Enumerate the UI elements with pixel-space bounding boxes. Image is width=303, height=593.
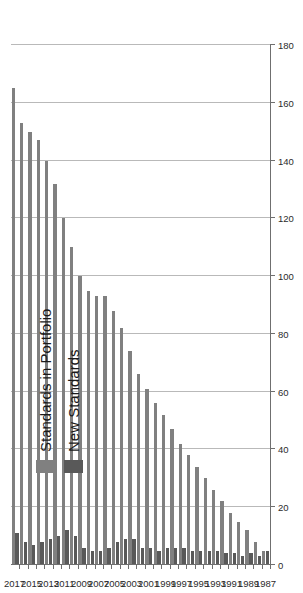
rotated-figure-wrapper: 1987198919911993199519971999200120032005… (0, 0, 303, 593)
category-tick-2006 (111, 565, 112, 569)
value-tick-label-140: 140 (278, 157, 294, 167)
category-tick-2007 (103, 565, 104, 569)
bar-standards-in-portfolio-2004 (120, 328, 123, 565)
category-tick-1997 (186, 565, 187, 569)
value-tick-120 (270, 217, 275, 218)
bar-standards-in-portfolio-2017 (12, 88, 15, 565)
legend-swatch-portfolio (36, 460, 55, 473)
value-tick-label-160: 160 (278, 99, 294, 109)
value-tick-180 (270, 44, 275, 45)
legend-label-new-standards: New Standards (65, 349, 82, 452)
legend-swatch-new-standards (64, 460, 83, 473)
bar-new-standards-2013 (49, 539, 52, 565)
value-tick-40 (270, 448, 275, 449)
bar-new-standards-2014 (40, 542, 43, 565)
bar-new-standards-1999 (166, 548, 169, 565)
bar-new-standards-1998 (174, 548, 177, 565)
bar-standards-in-portfolio-1988 (254, 542, 257, 565)
bar-new-standards-1987 (266, 551, 269, 565)
category-tick-1999 (170, 565, 171, 569)
value-tick-label-180: 180 (278, 41, 294, 51)
gridline-160 (11, 102, 270, 103)
category-tick-1996 (195, 565, 196, 569)
category-tick-2002 (145, 565, 146, 569)
category-tick-2001 (153, 565, 154, 569)
bar-new-standards-2006 (107, 548, 110, 565)
bar-standards-in-portfolio-2016 (20, 123, 23, 565)
value-tick-label-80: 80 (278, 330, 289, 340)
bar-standards-in-portfolio-1993 (212, 490, 215, 565)
category-tick-1994 (212, 565, 213, 569)
value-tick-label-60: 60 (278, 388, 289, 398)
bar-standards-in-portfolio-1995 (195, 467, 198, 565)
bar-standards-in-portfolio-2003 (128, 351, 131, 565)
category-tick-2013 (53, 565, 54, 569)
category-tick-2009 (86, 565, 87, 569)
bar-standards-in-portfolio-2008 (87, 291, 90, 565)
bar-standards-in-portfolio-2001 (145, 389, 148, 565)
bar-new-standards-2007 (99, 551, 102, 565)
bar-standards-in-portfolio-2000 (154, 403, 157, 565)
category-tick-1992 (228, 565, 229, 569)
bar-new-standards-2012 (57, 536, 60, 565)
bar-standards-in-portfolio-1987 (262, 551, 265, 565)
bar-new-standards-2005 (116, 542, 119, 565)
category-tick-2014 (44, 565, 45, 569)
category-tick-1987 (270, 565, 271, 569)
bar-new-standards-2004 (124, 539, 127, 565)
category-tick-2005 (120, 565, 121, 569)
legend-item-standards-in-portfolio: Standards in Portfolio (36, 309, 55, 473)
bar-new-standards-2011 (65, 530, 68, 565)
category-tick-1989 (253, 565, 254, 569)
bar-new-standards-2016 (24, 542, 27, 565)
category-tick-2012 (61, 565, 62, 569)
bar-new-standards-2009 (82, 548, 85, 565)
bar-chart-figure: 1987198919911993199519971999200120032005… (0, 0, 303, 593)
value-tick-80 (270, 333, 275, 334)
legend-label-portfolio: Standards in Portfolio (37, 309, 54, 452)
category-tick-2010 (78, 565, 79, 569)
bar-new-standards-1994 (208, 551, 211, 565)
value-axis-line: 020406080100120140160180 (270, 45, 271, 565)
category-tick-2011 (69, 565, 70, 569)
category-tick-2000 (161, 565, 162, 569)
bar-standards-in-portfolio-1998 (170, 429, 173, 565)
bar-new-standards-2000 (157, 551, 160, 565)
bar-new-standards-1997 (182, 548, 185, 565)
bar-new-standards-2002 (141, 548, 144, 565)
bar-standards-in-portfolio-1989 (245, 530, 248, 565)
bar-new-standards-2001 (149, 548, 152, 565)
value-tick-0 (270, 564, 275, 565)
category-axis-line (11, 564, 270, 565)
bar-standards-in-portfolio-2005 (112, 311, 115, 565)
value-tick-100 (270, 275, 275, 276)
category-tick-2017 (19, 565, 20, 569)
gridline-100 (11, 275, 270, 276)
bar-new-standards-2017 (15, 533, 18, 565)
category-tick-2003 (136, 565, 137, 569)
value-tick-label-120: 120 (278, 214, 294, 224)
bar-new-standards-1996 (191, 551, 194, 565)
bar-standards-in-portfolio-2002 (137, 374, 140, 565)
value-tick-20 (270, 506, 275, 507)
bar-standards-in-portfolio-2015 (28, 132, 31, 565)
bar-standards-in-portfolio-1991 (229, 513, 232, 565)
category-tick-1998 (178, 565, 179, 569)
bar-new-standards-1993 (216, 551, 219, 565)
value-tick-label-0: 0 (278, 561, 283, 571)
category-tick-1990 (245, 565, 246, 569)
category-tick-1993 (220, 565, 221, 569)
bar-standards-in-portfolio-1999 (162, 415, 165, 565)
chart-legend: Standards in Portfolio New Standards (36, 309, 83, 473)
bar-standards-in-portfolio-1994 (204, 478, 207, 565)
gridline-20 (11, 506, 270, 507)
legend-item-new-standards: New Standards (64, 309, 83, 473)
category-tick-2008 (95, 565, 96, 569)
bar-standards-in-portfolio-1997 (179, 444, 182, 565)
gridline-120 (11, 217, 270, 218)
bar-new-standards-2008 (91, 551, 94, 565)
bar-new-standards-2015 (32, 545, 35, 565)
value-tick-140 (270, 160, 275, 161)
value-tick-label-40: 40 (278, 445, 289, 455)
bar-standards-in-portfolio-2007 (95, 296, 98, 565)
